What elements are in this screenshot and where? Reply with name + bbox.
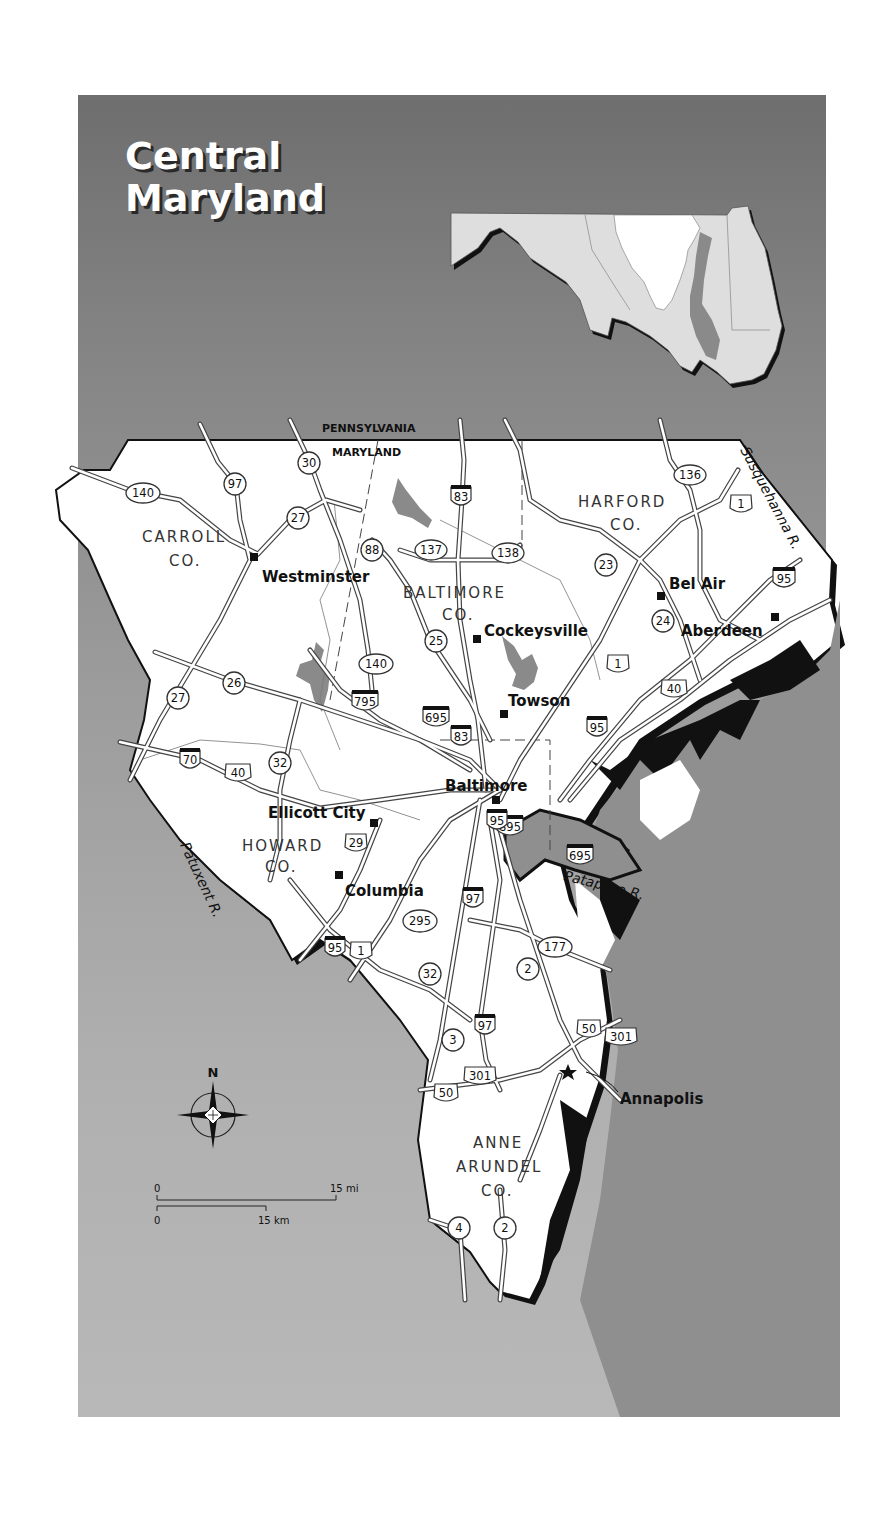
svg-text:32: 32 <box>273 756 288 770</box>
svg-text:2: 2 <box>524 962 531 976</box>
svg-text:30: 30 <box>302 456 317 470</box>
state-route-2-shield: 2 <box>517 958 539 980</box>
interstate-95-baltimore-shield: 95 <box>487 809 507 829</box>
anne-arundel-county-label: ANNE <box>473 1134 523 1152</box>
cockeysville-marker <box>473 635 481 643</box>
state-route-32-south-shield: 32 <box>419 963 441 985</box>
state-route-27-shield: 27 <box>287 507 309 529</box>
state-route-32-shield: 32 <box>269 752 291 774</box>
svg-text:0: 0 <box>154 1215 160 1226</box>
interstate-97-south-shield: 97 <box>475 1014 495 1034</box>
columbia-label: Columbia <box>345 882 424 900</box>
carroll-county-label: CARROLL <box>142 528 226 546</box>
svg-text:95: 95 <box>777 572 792 586</box>
ellicott-city-marker <box>370 819 378 827</box>
svg-text:27: 27 <box>291 511 306 525</box>
svg-text:24: 24 <box>656 614 671 628</box>
interstate-95-south-shield: 95 <box>325 936 345 956</box>
svg-text:70: 70 <box>183 753 198 767</box>
us-route-50-west-shield: 50 <box>434 1084 458 1101</box>
state-route-88-shield: 88 <box>361 539 383 561</box>
state-route-137-shield: 137 <box>415 540 447 560</box>
us-route-40-east-shield: 40 <box>661 680 687 697</box>
howard-county-label: HOWARD <box>242 837 323 855</box>
svg-text:2: 2 <box>501 1221 508 1235</box>
state-route-23-shield: 23 <box>595 554 617 576</box>
svg-text:88: 88 <box>365 543 380 557</box>
state-route-140-south-shield: 140 <box>359 654 393 674</box>
svg-text:137: 137 <box>420 543 442 557</box>
svg-text:40: 40 <box>667 682 682 696</box>
svg-text:138: 138 <box>497 546 519 560</box>
svg-text:83: 83 <box>454 730 469 744</box>
svg-text:50: 50 <box>439 1086 454 1100</box>
svg-text:95: 95 <box>490 814 505 828</box>
us-route-301-east-shield: 301 <box>605 1028 637 1045</box>
maryland-label: MARYLAND <box>332 446 401 459</box>
svg-text:83: 83 <box>454 490 469 504</box>
svg-text:50: 50 <box>582 1022 597 1036</box>
aberdeen-marker <box>771 613 779 621</box>
svg-text:295: 295 <box>409 914 431 928</box>
us-route-40-west-shield: 40 <box>225 764 251 781</box>
svg-text:4: 4 <box>455 1221 462 1235</box>
ellicott-city-label: Ellicott City <box>268 804 366 822</box>
compass-rose-icon: N <box>177 1065 249 1149</box>
scale-bar: 0 15 mi 0 15 km <box>154 1183 358 1226</box>
svg-text:CO.: CO. <box>169 552 201 570</box>
svg-text:3: 3 <box>449 1033 456 1047</box>
svg-text:1: 1 <box>357 944 364 958</box>
central-maryland-map: 140 97 30 27 88 137 138 136 23 24 25 140… <box>0 0 886 1526</box>
state-route-24-shield: 24 <box>652 610 674 632</box>
interstate-70-shield: 70 <box>180 748 200 768</box>
svg-text:1: 1 <box>614 657 621 671</box>
us-route-1-south-shield: 1 <box>350 942 372 959</box>
us-route-301-west-shield: 301 <box>464 1067 496 1084</box>
state-route-97-shield: 97 <box>224 473 246 495</box>
svg-text:301: 301 <box>610 1030 632 1044</box>
annapolis-label: Annapolis <box>620 1090 703 1108</box>
svg-text:29: 29 <box>349 836 364 850</box>
svg-text:136: 136 <box>679 468 701 482</box>
svg-text:CO.: CO. <box>442 606 474 624</box>
svg-text:140: 140 <box>365 657 387 671</box>
state-route-177-shield: 177 <box>538 937 572 957</box>
svg-text:CO.: CO. <box>265 858 297 876</box>
harford-county-label: HARFORD <box>578 493 666 511</box>
state-route-3-shield: 3 <box>442 1029 464 1051</box>
us-route-29-shield: 29 <box>345 834 367 851</box>
compass-north-label: N <box>208 1065 219 1080</box>
us-route-50-east-shield: 50 <box>577 1020 601 1037</box>
interstate-95-towson-shield: 95 <box>587 716 607 736</box>
state-route-4-shield: 4 <box>448 1217 470 1239</box>
towson-label: Towson <box>508 692 570 710</box>
svg-text:97: 97 <box>466 892 481 906</box>
svg-text:695: 695 <box>425 711 447 725</box>
svg-text:177: 177 <box>544 940 566 954</box>
svg-text:1: 1 <box>737 497 744 511</box>
interstate-795-shield: 795 <box>352 690 378 710</box>
towson-marker <box>500 710 508 718</box>
svg-text:32: 32 <box>423 967 438 981</box>
state-route-295-shield: 295 <box>403 910 437 932</box>
svg-text:140: 140 <box>132 486 154 500</box>
state-route-138-shield: 138 <box>492 543 524 563</box>
svg-text:795: 795 <box>354 695 376 709</box>
state-route-30-shield: 30 <box>298 452 320 474</box>
svg-text:97: 97 <box>478 1019 493 1033</box>
columbia-marker <box>335 871 343 879</box>
svg-text:CO.: CO. <box>481 1182 513 1200</box>
westminster-marker <box>250 553 258 561</box>
svg-text:95: 95 <box>328 941 343 955</box>
state-route-26-shield: 26 <box>223 672 245 694</box>
svg-text:26: 26 <box>227 676 242 690</box>
svg-text:97: 97 <box>228 477 243 491</box>
interstate-97-shield: 97 <box>463 887 483 907</box>
interstate-83-north-shield: 83 <box>451 485 471 505</box>
svg-text:27: 27 <box>171 691 186 705</box>
bel-air-marker <box>657 592 665 600</box>
baltimore-marker <box>492 796 500 804</box>
svg-text:95: 95 <box>590 721 605 735</box>
svg-text:301: 301 <box>469 1069 491 1083</box>
state-route-140-shield: 140 <box>126 483 160 503</box>
